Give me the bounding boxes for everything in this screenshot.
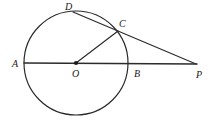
geometry-canvas: A D C O B P	[0, 0, 213, 125]
point-label-P: P	[195, 69, 202, 80]
segment-DP	[73, 12, 196, 64]
point-label-D: D	[64, 1, 73, 12]
point-label-B: B	[134, 68, 140, 79]
point-label-O: O	[72, 68, 79, 79]
point-label-C: C	[119, 18, 126, 29]
segment-AP	[24, 63, 197, 64]
segment-OC	[76, 31, 118, 63]
point-label-A: A	[11, 58, 19, 69]
geometry-diagram: A D C O B P	[0, 0, 213, 125]
center-dot-O	[74, 61, 78, 65]
